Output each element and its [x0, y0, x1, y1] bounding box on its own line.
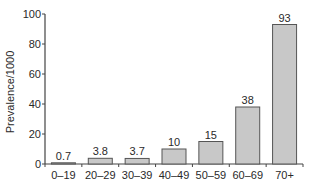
y-tick-label: 40 — [29, 98, 41, 110]
bars: 0.73.83.710153893 — [51, 12, 296, 165]
y-axis-label: Prevalence/1000 — [4, 51, 16, 134]
y-tick-label: 60 — [29, 68, 41, 80]
x-tick-label: 30–39 — [122, 169, 153, 181]
x-tick-label: 50–59 — [196, 169, 227, 181]
prevalence-bar-chart: Prevalence/1000 020406080100 0–1920–2930… — [0, 0, 317, 188]
bar — [88, 158, 112, 164]
x-tick-label: 0–19 — [51, 169, 75, 181]
bar-value-label: 3.8 — [93, 145, 108, 157]
bar — [236, 107, 260, 164]
bar — [273, 25, 297, 165]
bar-value-label: 10 — [168, 136, 180, 148]
bar — [125, 158, 149, 164]
y-tick-label: 0 — [35, 158, 41, 170]
y-axis-title: Prevalence/1000 — [4, 51, 16, 134]
bar-value-label: 0.7 — [56, 150, 71, 162]
bar — [199, 142, 223, 165]
x-tick-label: 70+ — [275, 169, 294, 181]
bar-value-label: 15 — [205, 129, 217, 141]
x-tick-label: 20–29 — [85, 169, 116, 181]
bar — [162, 149, 186, 164]
y-axis: 020406080100 — [23, 8, 45, 170]
bar — [51, 163, 75, 164]
bar-value-label: 3.7 — [129, 145, 144, 157]
x-axis: 0–1920–2930–3940–4950–5960–6970+ — [45, 164, 303, 181]
chart-canvas: Prevalence/1000 020406080100 0–1920–2930… — [0, 0, 317, 188]
bar-value-label: 93 — [278, 12, 290, 24]
y-tick-label: 80 — [29, 38, 41, 50]
y-tick-label: 100 — [23, 8, 41, 20]
x-tick-label: 60–69 — [232, 169, 263, 181]
y-tick-label: 20 — [29, 128, 41, 140]
bar-value-label: 38 — [242, 94, 254, 106]
x-tick-label: 40–49 — [159, 169, 190, 181]
